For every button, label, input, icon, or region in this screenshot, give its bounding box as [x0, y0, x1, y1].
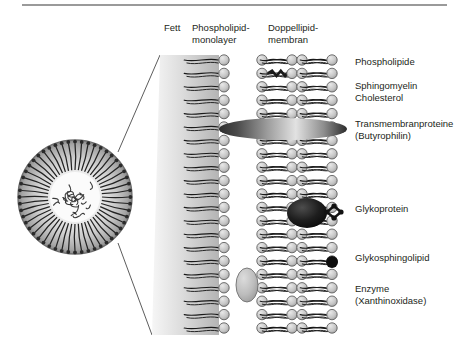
monolayer-head: [219, 162, 229, 172]
globule-head: [42, 150, 46, 154]
fat-phase-panel: [152, 55, 219, 335]
bilayer-outer-b-head: [327, 296, 337, 306]
monolayer-head: [219, 309, 229, 319]
globule-head: [19, 182, 23, 186]
monolayer-head: [219, 283, 229, 293]
globule-head: [36, 237, 40, 241]
monolayer-head: [219, 296, 229, 306]
monolayer-head: [219, 135, 229, 145]
bilayer-inner: [257, 55, 297, 333]
glycoprotein-sugar-node-2: [331, 215, 336, 220]
globule-head: [122, 221, 126, 225]
monolayer-head: [219, 202, 229, 212]
globule-head: [128, 202, 132, 206]
globule-head: [73, 140, 77, 144]
globule-head: [110, 237, 114, 241]
leader-line-0: [118, 55, 160, 152]
globule-head: [60, 141, 64, 145]
bilayer-inner-b-head: [287, 323, 297, 333]
bilayer-outer-b-head: [327, 229, 337, 239]
globule-head: [122, 169, 126, 173]
bilayer-outer-b-head: [327, 68, 337, 78]
globule-tail: [21, 196, 48, 197]
globule-head: [54, 143, 58, 147]
bilayer-outer-b-head: [327, 95, 337, 105]
globule-head: [19, 208, 23, 212]
globule-head: [105, 150, 109, 154]
bilayer-inner-b-head: [287, 242, 297, 252]
bilayer-outer-b-head: [327, 309, 337, 319]
globule-head: [73, 251, 77, 255]
bilayer-outer-b-head: [327, 175, 337, 185]
bilayer-inner-b-head: [287, 229, 297, 239]
bilayer-outer-b-head: [327, 55, 337, 65]
monolayer-head: [219, 229, 229, 239]
bilayer-inner-b-head: [287, 149, 297, 159]
glycoprotein-sugar-node-3: [338, 209, 343, 214]
monolayer-head: [219, 82, 229, 92]
monolayer-head: [219, 68, 229, 78]
globule-head: [115, 158, 119, 162]
bilayer-inner-b-head: [287, 256, 297, 266]
bilayer-inner-b-head: [287, 162, 297, 172]
bilayer-inner-b-head: [287, 296, 297, 306]
bilayer-outer-b-head: [327, 82, 337, 92]
fat-phase-shape: [152, 55, 219, 335]
monolayer-head: [219, 256, 229, 266]
globule-head: [18, 188, 22, 192]
glycoprotein-sugar-node-0: [324, 209, 329, 214]
globule-head: [42, 241, 46, 245]
bilayer-outer-b-head: [327, 189, 337, 199]
monolayer-head: [219, 55, 229, 65]
globule-head: [99, 244, 103, 248]
globule-head: [80, 140, 84, 144]
monolayer-head: [219, 175, 229, 185]
globule-head: [60, 249, 64, 253]
globule-head: [21, 176, 25, 180]
globule-head: [105, 241, 109, 245]
glycoprotein-body: [287, 198, 327, 228]
globule-head: [99, 146, 103, 150]
globule-head: [24, 169, 28, 173]
globule-head: [28, 227, 32, 231]
monolayer-head: [219, 269, 229, 279]
bilayer-inner-b-head: [287, 95, 297, 105]
globule-head: [54, 247, 58, 251]
fat-globule: [18, 140, 133, 255]
glycoprotein-sugar-node-1: [331, 203, 336, 208]
globule-head: [119, 164, 123, 168]
bilayer-inner-b-head: [287, 55, 297, 65]
globule-head: [127, 182, 131, 186]
monolayer-head: [219, 216, 229, 226]
bilayer-outer-b-head: [327, 269, 337, 279]
globule-head: [86, 141, 90, 145]
globule-head: [93, 247, 97, 251]
bilayer-inner-b-head: [287, 68, 297, 78]
globule-head: [127, 208, 131, 212]
bilayer-inner-b-head: [287, 283, 297, 293]
globule-head: [119, 227, 123, 231]
monolayer-head: [219, 189, 229, 199]
globule-head: [80, 250, 84, 254]
bilayer-outer-b-head: [327, 149, 337, 159]
globule-head: [21, 215, 25, 219]
bilayer-outer-b-head: [327, 108, 337, 118]
enzyme-xanthinoxidase: [236, 268, 258, 302]
globule-head: [28, 164, 32, 168]
globule-head: [66, 140, 70, 144]
monolayer-head: [219, 323, 229, 333]
globule-head: [18, 195, 22, 199]
globule-head: [128, 188, 132, 192]
bilayer-inner-b-head: [287, 189, 297, 199]
leader-line-1: [118, 243, 152, 335]
transmembrane-protein: [219, 118, 347, 140]
globule-head: [86, 249, 90, 253]
globule-tail: [75, 143, 76, 170]
globule-head: [125, 215, 129, 219]
bilayer-inner-b-head: [287, 309, 297, 319]
globule-head: [47, 244, 51, 248]
monolayer-head: [219, 108, 229, 118]
bilayer-outer-b-head: [327, 242, 337, 252]
monolayer-head: [219, 95, 229, 105]
bilayer-inner-b-head: [287, 82, 297, 92]
